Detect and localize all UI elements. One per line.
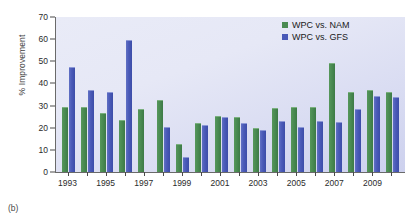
chart-legend: WPC vs. NAMWPC vs. GFS	[282, 20, 350, 42]
bar-group-2002	[231, 17, 250, 172]
bar-1996-nam	[119, 120, 125, 172]
x-tick-mark-1993	[68, 172, 69, 176]
bar-2007-nam	[329, 63, 335, 173]
legend-label: WPC vs. GFS	[292, 32, 348, 42]
bar-2006-gfs	[317, 121, 323, 172]
bar-group-2009	[364, 17, 383, 172]
figure-caption: (b)	[8, 203, 18, 213]
x-tick-mark-2003	[258, 172, 259, 176]
x-tick-label-2003: 2003	[249, 178, 268, 188]
x-tick-label-1993: 1993	[58, 178, 77, 188]
bar-2010-nam	[386, 92, 392, 172]
x-tick-mark-2002	[239, 172, 240, 176]
bar-group-2003	[250, 17, 269, 172]
plot-area	[55, 17, 405, 173]
x-tick-label-2005: 2005	[287, 178, 306, 188]
bar-2001-nam	[215, 116, 221, 172]
x-tick-mark-1995	[106, 172, 107, 176]
bar-2009-gfs	[374, 96, 380, 172]
x-tick-label-1997: 1997	[134, 178, 153, 188]
x-tick-mark-2005	[296, 172, 297, 176]
bar-1999-nam	[176, 144, 182, 172]
bar-group-1994	[78, 17, 97, 172]
bar-1998-gfs	[164, 127, 170, 172]
x-tick-mark-1996	[125, 172, 126, 176]
y-tick-label-30: 30	[26, 101, 48, 111]
bar-group-1997	[135, 17, 154, 172]
figure-container: % Improvement 010203040506070 1993199519…	[0, 0, 412, 220]
bar-2008-nam	[348, 92, 354, 172]
y-tick-label-10: 10	[26, 145, 48, 155]
x-axis-tick-marks	[55, 172, 404, 177]
x-tick-mark-2007	[334, 172, 335, 176]
x-tick-label-2007: 2007	[325, 178, 344, 188]
x-tick-label-2009: 2009	[363, 178, 382, 188]
legend-label: WPC vs. NAM	[292, 20, 350, 30]
x-tick-mark-1997	[144, 172, 145, 176]
x-tick-mark-2009	[372, 172, 373, 176]
x-tick-mark-2008	[353, 172, 354, 176]
bar-1994-nam	[81, 107, 87, 172]
x-tick-label-1999: 1999	[172, 178, 191, 188]
x-tick-mark-1994	[87, 172, 88, 176]
bar-2002-gfs	[241, 123, 247, 172]
y-tick-label-20: 20	[26, 123, 48, 133]
bar-2003-nam	[253, 128, 259, 172]
x-tick-mark-2006	[315, 172, 316, 176]
y-tick-label-0: 0	[26, 167, 48, 177]
bar-group-1996	[116, 17, 135, 172]
bar-2009-nam	[367, 90, 373, 172]
bar-2004-nam	[272, 108, 278, 172]
bar-2007-gfs	[336, 122, 342, 172]
y-axis-tick-labels: 010203040506070	[26, 12, 48, 178]
bar-1994-gfs	[88, 90, 94, 172]
bar-2005-nam	[291, 107, 297, 172]
bar-1996-gfs	[126, 40, 132, 172]
x-tick-mark-1999	[182, 172, 183, 176]
bar-2004-gfs	[279, 121, 285, 172]
bar-group-1999	[173, 17, 192, 172]
bar-groups-container	[56, 17, 405, 172]
x-tick-label-2001: 2001	[211, 178, 230, 188]
x-tick-mark-2010	[391, 172, 392, 176]
bar-group-1993	[59, 17, 78, 172]
legend-swatch-icon	[282, 34, 288, 40]
x-tick-mark-2001	[220, 172, 221, 176]
bar-2000-gfs	[202, 125, 208, 173]
bar-1995-nam	[100, 113, 106, 172]
bar-2003-gfs	[260, 130, 266, 172]
bar-2005-gfs	[298, 127, 304, 172]
bar-1997-nam	[138, 109, 144, 172]
bar-group-1995	[97, 17, 116, 172]
x-axis-tick-labels: 199319951997199920012003200520072009	[55, 178, 404, 192]
bar-2002-nam	[234, 117, 240, 172]
y-tick-label-50: 50	[26, 56, 48, 66]
bar-group-2010	[383, 17, 402, 172]
x-tick-label-1995: 1995	[96, 178, 115, 188]
bar-group-1998	[154, 17, 173, 172]
bar-1998-nam	[157, 100, 163, 172]
legend-item-nam: WPC vs. NAM	[282, 20, 350, 30]
legend-swatch-icon	[282, 22, 288, 28]
y-tick-label-60: 60	[26, 34, 48, 44]
y-tick-label-40: 40	[26, 78, 48, 88]
x-tick-mark-2004	[277, 172, 278, 176]
bar-1993-gfs	[69, 67, 75, 172]
bar-2006-nam	[310, 107, 316, 172]
x-tick-mark-2000	[201, 172, 202, 176]
bar-2001-gfs	[222, 117, 228, 172]
bar-2000-nam	[195, 123, 201, 172]
bar-2010-gfs	[393, 97, 399, 172]
legend-item-gfs: WPC vs. GFS	[282, 32, 350, 42]
bar-1993-nam	[62, 107, 68, 172]
x-tick-mark-1998	[163, 172, 164, 176]
bar-group-2001	[212, 17, 231, 172]
y-tick-label-70: 70	[26, 12, 48, 22]
bar-group-2000	[192, 17, 211, 172]
bar-1999-gfs	[183, 157, 189, 172]
bar-2008-gfs	[355, 109, 361, 172]
bar-1995-gfs	[107, 92, 113, 172]
